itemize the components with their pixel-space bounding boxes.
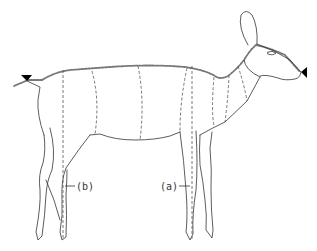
- label-b-group: (b): [65, 181, 94, 192]
- label-b: (b): [76, 181, 94, 192]
- body-cut-lines: [92, 66, 187, 140]
- nose-marker-icon: [301, 67, 307, 78]
- tail: [14, 80, 44, 135]
- ear: [240, 12, 257, 46]
- belly: [90, 132, 180, 140]
- back-line: [42, 45, 300, 80]
- front-legs: [180, 131, 213, 240]
- neck-front: [200, 77, 260, 135]
- label-a: (a): [160, 181, 178, 192]
- deer-diagram: (b) (a): [0, 0, 317, 251]
- deer-drawing: (b) (a): [0, 0, 317, 251]
